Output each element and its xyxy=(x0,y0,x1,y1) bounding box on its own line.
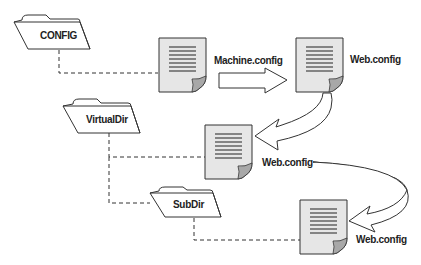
document-web-config-root[interactable]: Web.config xyxy=(296,38,401,92)
folder-virtualdir[interactable]: VirtualDir xyxy=(63,99,140,133)
config-inheritance-diagram: CONFIG VirtualDir SubDir Machine.config … xyxy=(0,0,421,265)
folder-label: SubDir xyxy=(173,199,204,210)
folder-config[interactable]: CONFIG xyxy=(14,15,90,49)
document-icon xyxy=(205,125,252,179)
block-arrow-icon xyxy=(219,68,287,93)
document-icon xyxy=(159,38,206,92)
document-label: Web.config xyxy=(356,234,407,245)
folder-subdir[interactable]: SubDir xyxy=(150,187,221,217)
document-label: Machine.config xyxy=(214,55,283,66)
document-label: Web.config xyxy=(350,54,401,65)
document-label: Web.config xyxy=(262,157,313,168)
folder-label: CONFIG xyxy=(40,30,78,41)
document-icon xyxy=(296,38,343,92)
curved-arrow-icon xyxy=(255,93,332,150)
document-icon xyxy=(300,200,347,254)
folder-label: VirtualDir xyxy=(86,114,128,125)
